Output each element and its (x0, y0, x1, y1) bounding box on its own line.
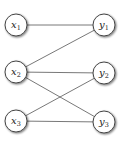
edge-x2-y1 (16, 25, 104, 72)
node-y3: y3 (93, 111, 115, 133)
node-x2: x2 (5, 61, 27, 83)
edges-group (16, 25, 104, 122)
bipartite-graph: x1x2x3y1y2y3 (0, 0, 123, 145)
node-x1: x1 (5, 14, 27, 36)
edge-x3-y2 (16, 73, 104, 121)
node-y1: y1 (93, 14, 115, 36)
nodes-group: x1x2x3y1y2y3 (5, 14, 115, 133)
node-y2: y2 (93, 62, 115, 84)
edge-x3-y3 (16, 121, 104, 122)
edge-x2-y2 (16, 72, 104, 73)
node-x3: x3 (5, 110, 27, 132)
